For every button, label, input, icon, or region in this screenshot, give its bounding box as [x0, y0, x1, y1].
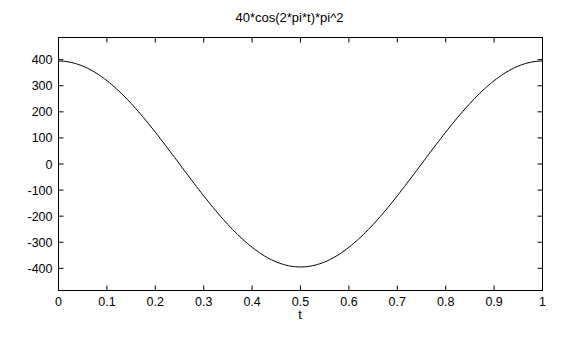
y-tick-label: -300 [27, 236, 52, 250]
y-tick-label: 300 [32, 79, 53, 93]
y-tick-label: -100 [27, 184, 52, 198]
plot-area: 00.10.20.30.40.50.60.70.80.9140030020010… [0, 0, 579, 339]
figure: 40*cos(2*pi*t)*pi^2 00.10.20.30.40.50.60… [0, 0, 579, 339]
y-tick-label: 0 [46, 158, 53, 172]
y-tick-label: -400 [27, 262, 52, 276]
y-tick-label: -200 [27, 210, 52, 224]
y-tick-label: 100 [32, 131, 53, 145]
axes-box [59, 38, 543, 291]
x-axis-label: t [0, 307, 579, 322]
data-line [59, 61, 543, 267]
y-tick-label: 400 [32, 53, 53, 67]
y-tick-label: 200 [32, 105, 53, 119]
